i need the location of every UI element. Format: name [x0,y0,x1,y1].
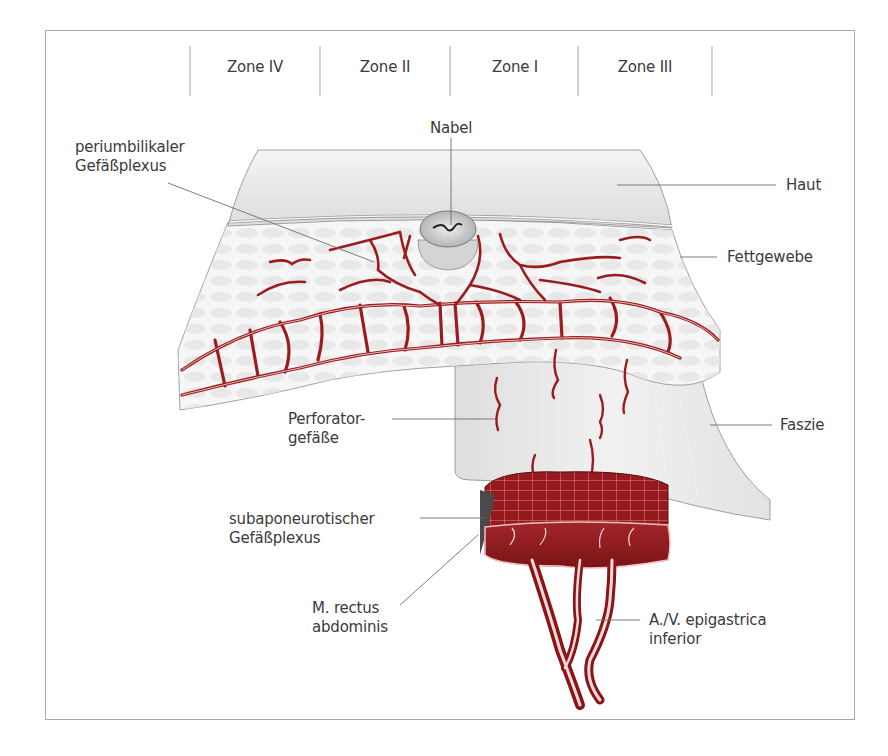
label-subaponeurotic-plexus: subaponeurotischer Gefäßplexus [229,510,374,548]
label-rectus-abdominis: M. rectus abdominis [312,599,388,637]
zone-label-iii: Zone III [580,58,710,76]
label-periumbilical-plexus: periumbilikaler Gefäßplexus [75,138,184,176]
rectus-muscle-block [480,472,670,568]
zone-label-iv: Zone IV [190,58,320,76]
label-epigastrica-inferior: A./V. epigastrica inferior [649,611,766,649]
epigastric-vessels [532,560,612,705]
zone-label-ii: Zone II [320,58,450,76]
label-faszie: Faszie [780,416,824,435]
label-haut: Haut [786,176,821,195]
label-nabel: Nabel [430,119,472,138]
label-fettgewebe: Fettgewebe [727,248,813,267]
zone-label-i: Zone I [450,58,580,76]
label-perforator-vessels: Perforator- gefäße [288,410,365,448]
navel [418,211,478,270]
